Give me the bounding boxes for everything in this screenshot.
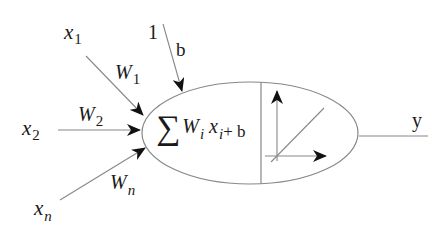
- input-label-x1: x1: [64, 22, 82, 47]
- bias-input-label: 1: [148, 22, 158, 42]
- sigma-symbol: ∑: [156, 109, 180, 146]
- output-label-y: y: [412, 110, 422, 130]
- activation-linear-curve: [271, 108, 324, 162]
- weight-label-w2: W2: [78, 104, 103, 129]
- weight-label-w1: W1: [115, 62, 140, 87]
- bias-weight-label: b: [176, 40, 186, 59]
- input-label-xn: xn: [34, 198, 52, 224]
- input-label-x2: x2: [22, 118, 40, 143]
- weight-label-wn: Wn: [110, 172, 135, 198]
- neuron-diagram: x1 W1 x2 W2 xn Wn 1 b ∑Wixi+ b y: [0, 0, 445, 240]
- summation-formula: ∑Wixi+ b: [156, 111, 246, 145]
